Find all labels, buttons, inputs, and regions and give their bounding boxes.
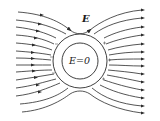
arrowheads-right bbox=[141, 9, 145, 115]
inside-field-label: E=0 bbox=[69, 56, 90, 66]
field-label: E bbox=[82, 14, 90, 24]
field-diagram: E E=0 bbox=[0, 0, 160, 121]
